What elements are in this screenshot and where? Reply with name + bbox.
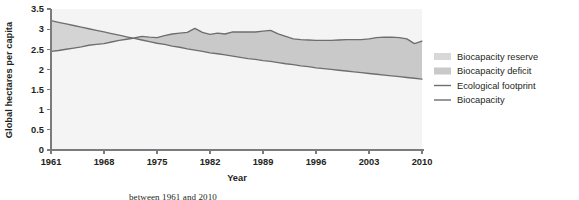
legend-swatch [434,68,451,75]
x-axis-ticks: 19611968197519821989199620032010 [41,150,433,167]
figure-caption-strip: between 1961 and 2010 [0,193,579,200]
legend-label: Ecological footprint [457,81,536,91]
y-tick-label: 0 [39,145,44,155]
chart-legend: Biocapacity reserveBiocapacity deficitEc… [434,52,538,106]
legend-label: Biocapacity [457,95,505,105]
y-axis-ticks: 00.511.522.533.5 [31,4,51,155]
figure-container: 00.511.522.533.5 19611968197519821989199… [0,0,579,200]
y-tick-label: 0.5 [31,125,44,135]
x-tick-label: 1968 [94,157,115,167]
plot-background [51,9,422,150]
x-tick-label: 1989 [253,157,274,167]
y-axis-title: Global hectares per capita [4,21,14,138]
y-tick-label: 2 [39,65,44,75]
y-tick-label: 2.5 [31,45,44,55]
x-tick-label: 1996 [306,157,327,167]
x-tick-label: 1961 [41,157,62,167]
legend-swatch [434,53,451,60]
x-axis-title: Year [227,173,247,183]
x-tick-label: 2010 [412,157,433,167]
x-tick-label: 1975 [147,157,168,167]
y-tick-label: 1 [39,105,44,115]
figure-caption-text: between 1961 and 2010 [129,193,217,200]
x-tick-label: 2003 [359,157,380,167]
ecological-footprint-chart: 00.511.522.533.5 19611968197519821989199… [0,0,579,200]
y-tick-label: 3.5 [31,4,44,14]
legend-label: Biocapacity reserve [457,52,538,62]
legend-label: Biocapacity deficit [457,66,532,76]
x-tick-label: 1982 [200,157,221,167]
y-tick-label: 1.5 [31,85,44,95]
y-tick-label: 3 [39,24,44,34]
